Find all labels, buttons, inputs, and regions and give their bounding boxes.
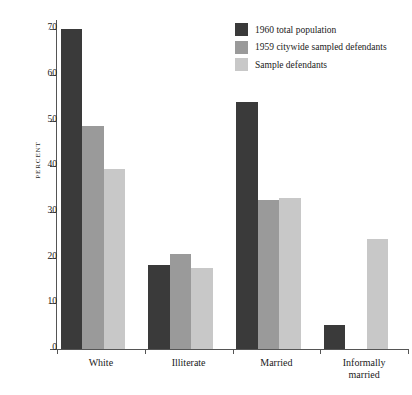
legend-label: Sample defendants [255, 60, 327, 70]
y-tick-label: 60 [13, 68, 57, 78]
bar [170, 254, 192, 349]
y-tick-label: 10 [13, 296, 57, 306]
legend-label: 1960 total population [255, 25, 336, 35]
bar [324, 325, 346, 349]
y-tick: 60 [0, 75, 57, 76]
y-tick: 30 [0, 212, 57, 213]
bar-group [61, 20, 126, 349]
category-label-line: Married [233, 357, 321, 369]
y-tick-label: 20 [13, 251, 57, 261]
legend-item: 1959 citywide sampled defendants [235, 40, 387, 55]
legend-label: 1959 citywide sampled defendants [255, 42, 387, 52]
y-tick-label: 50 [13, 114, 57, 124]
category-label: Married [233, 357, 321, 369]
y-tick-label: 70 [13, 22, 57, 32]
x-tick-mark [145, 349, 146, 354]
x-tick-mark [233, 349, 234, 354]
y-tick: 50 [0, 121, 57, 122]
x-tick-mark [320, 349, 321, 354]
bar [279, 198, 301, 349]
x-tick-mark [57, 349, 58, 354]
bar-chart: PERCENT 010203040506070 WhiteIlliterateM… [0, 0, 412, 395]
y-tick: 70 [0, 29, 57, 30]
legend-swatch-icon [235, 58, 248, 71]
bar [367, 239, 389, 349]
category-label: Informallymarried [320, 357, 408, 380]
bar [191, 268, 213, 349]
bar [61, 29, 83, 349]
y-tick-label: 0 [13, 342, 57, 352]
y-tick: 20 [0, 258, 57, 259]
category-label: Illiterate [145, 357, 233, 369]
bar [258, 200, 280, 349]
bar [82, 126, 104, 349]
legend-item: Sample defendants [235, 57, 387, 72]
y-tick: 40 [0, 166, 57, 167]
bar-group [148, 20, 213, 349]
category-label-line: White [57, 357, 145, 369]
category-label-line: married [320, 369, 408, 381]
x-tick-mark [408, 349, 409, 354]
y-tick-label: 40 [13, 159, 57, 169]
bar [104, 169, 126, 349]
category-label-line: Informally [320, 357, 408, 369]
legend-swatch-icon [235, 23, 248, 36]
legend: 1960 total population1959 citywide sampl… [235, 22, 387, 75]
category-label: White [57, 357, 145, 369]
bar [236, 102, 258, 349]
y-tick: 10 [0, 303, 57, 304]
legend-swatch-icon [235, 41, 248, 54]
bar [148, 265, 170, 349]
legend-item: 1960 total population [235, 22, 387, 37]
y-tick: 0 [0, 349, 57, 350]
y-tick-label: 30 [13, 205, 57, 215]
category-label-line: Illiterate [145, 357, 233, 369]
